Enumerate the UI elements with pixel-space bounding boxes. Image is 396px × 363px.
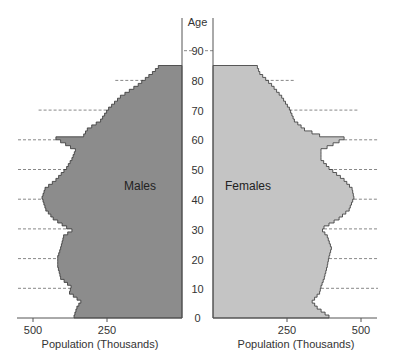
age-tick-60: 60 (191, 134, 203, 146)
age-tick-50: 50 (191, 164, 203, 176)
age-tick-90: 90 (191, 45, 203, 57)
males-label: Males (124, 179, 156, 193)
age-tick-70: 70 (191, 105, 203, 117)
x-axis-title-left: Population (Thousands) (42, 338, 159, 350)
x-tick-left-500: 500 (24, 324, 42, 336)
x-axis-title-right: Population (Thousands) (238, 338, 355, 350)
females-label: Females (225, 179, 271, 193)
age-tick-30: 30 (191, 224, 203, 236)
x-tick-right-250: 250 (278, 324, 296, 336)
males-population-area (42, 66, 182, 319)
age-tick-0: 0 (194, 312, 200, 324)
age-tick-40: 40 (191, 194, 203, 206)
population-pyramid-chart: Age 90 80 70 60 50 40 30 20 10 0 500 250… (0, 0, 396, 363)
age-tick-10: 10 (191, 283, 203, 295)
age-tick-80: 80 (191, 75, 203, 87)
age-tick-20: 20 (191, 254, 203, 266)
x-tick-left-250: 250 (98, 324, 116, 336)
x-tick-right-500: 500 (352, 324, 370, 336)
age-axis-title: Age (188, 16, 208, 28)
